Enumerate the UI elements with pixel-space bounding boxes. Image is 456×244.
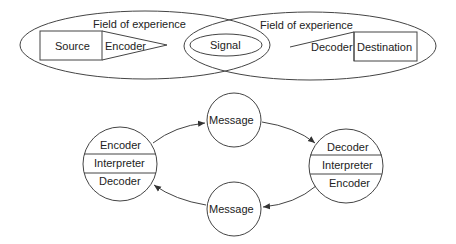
left-node-encoder: Encoder <box>100 139 141 151</box>
arrow-top-message-to-right <box>262 122 315 143</box>
left-node-decoder: Decoder <box>99 175 141 187</box>
top-message-label: Message <box>209 114 254 126</box>
encoder-label: Encoder <box>105 40 146 52</box>
left-node-interpreter: Interpreter <box>94 157 145 169</box>
arrow-left-to-top-message <box>153 123 205 143</box>
right-node-encoder: Encoder <box>329 177 370 189</box>
destination-label: Destination <box>357 41 412 53</box>
signal-label: Signal <box>210 39 241 51</box>
arrow-right-to-bottom-message <box>263 186 316 207</box>
source-label: Source <box>55 40 90 52</box>
bottom-message-label: Message <box>209 203 254 215</box>
right-node-decoder: Decoder <box>327 141 369 153</box>
right-node-interpreter: Interpreter <box>322 159 373 171</box>
communication-diagram: Field of experience Field of experience … <box>0 0 456 244</box>
arrow-bottom-message-to-left <box>154 185 206 205</box>
left-field-label: Field of experience <box>93 18 186 30</box>
decoder-label: Decoder <box>311 41 353 53</box>
right-field-label: Field of experience <box>260 19 353 31</box>
